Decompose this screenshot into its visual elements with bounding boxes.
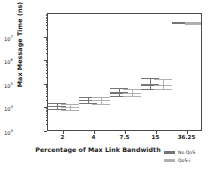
error-bar-cap-upper — [154, 79, 172, 80]
y-tick-label: 104 — [0, 104, 13, 112]
error-bar-marker — [61, 104, 79, 111]
x-tick-label: 36.25 — [167, 134, 207, 140]
legend-label: No QoS — [178, 150, 195, 155]
y-axis-title: Max Message Time (ns) — [16, 0, 23, 100]
y-tick-mark — [44, 131, 47, 132]
error-bar-marker — [123, 89, 141, 97]
y-tick-label: 105 — [0, 81, 13, 89]
legend-item[interactable]: No QoS — [164, 148, 218, 156]
legend-swatch — [164, 159, 175, 162]
error-bar-marker — [185, 22, 202, 25]
error-bar-marker — [154, 79, 172, 90]
figure-container: Max Message Time (ns) 103104105106107 24… — [0, 0, 218, 172]
x-axis-title: Percentage of Max Link Bandwidth — [32, 146, 164, 153]
error-bar-mean — [92, 100, 110, 101]
chart-legend: No QoSQoS-i — [164, 148, 218, 164]
plot-area — [47, 13, 202, 131]
error-bar-cap-upper — [123, 89, 141, 90]
error-bar-marker — [92, 97, 110, 104]
error-bar-mean — [185, 23, 202, 24]
legend-swatch — [164, 151, 175, 154]
error-bar-cap-lower — [92, 104, 110, 105]
error-bar-cap-lower — [123, 96, 141, 97]
error-bar-mean — [123, 93, 141, 94]
y-tick-label: 106 — [0, 57, 13, 65]
error-bar-cap-upper — [61, 104, 79, 105]
error-bar-cap-upper — [92, 97, 110, 98]
error-bar-cap-lower — [61, 110, 79, 111]
error-bar-cap-lower — [154, 89, 172, 90]
legend-label: QoS-i — [178, 158, 190, 163]
error-bar-mean — [154, 85, 172, 86]
error-bar-mean — [61, 107, 79, 108]
y-tick-label: 103 — [0, 128, 13, 136]
legend-item[interactable]: QoS-i — [164, 156, 218, 164]
y-tick-label: 107 — [0, 34, 13, 42]
